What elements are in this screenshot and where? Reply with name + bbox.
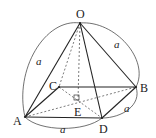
label-C: C <box>49 79 57 93</box>
edge-label-BD: a <box>124 102 130 114</box>
edge-OB <box>80 23 136 87</box>
edge-OE <box>78 23 80 101</box>
label-B: B <box>140 81 148 95</box>
edge-OD <box>80 23 102 118</box>
vertex-A-dot <box>24 116 26 118</box>
edge-OC <box>59 23 80 87</box>
label-O: O <box>76 7 85 21</box>
edge-AD <box>25 117 102 118</box>
vertex-C-dot <box>58 86 60 88</box>
vertex-O-dot <box>79 22 81 24</box>
label-A: A <box>13 114 22 128</box>
label-D: D <box>99 122 108 136</box>
vertex-D-dot <box>101 117 103 119</box>
edge-OA <box>25 23 80 117</box>
edge-label-OA: a <box>36 55 42 67</box>
edge-label-AD: a <box>60 123 66 135</box>
pyramid-diagram: O A B C D E a a a a <box>0 0 156 138</box>
vertex-B-dot <box>135 86 137 88</box>
edge-label-OB: a <box>114 38 120 50</box>
label-E: E <box>74 105 81 119</box>
